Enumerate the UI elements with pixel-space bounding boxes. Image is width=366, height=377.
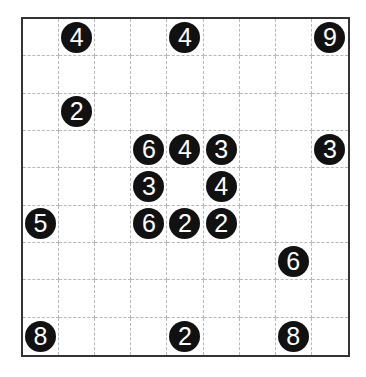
grid-cell-r6-c8[interactable] (312, 243, 348, 280)
grid-cell-r1-c3[interactable] (131, 56, 167, 93)
clue-circle: 4 (169, 22, 200, 53)
grid-cell-r6-c0[interactable] (23, 243, 59, 280)
grid-cell-r7-c7[interactable] (276, 280, 312, 317)
grid-cell-r0-c3[interactable] (131, 19, 167, 56)
grid-cell-r7-c4[interactable] (167, 280, 203, 317)
clue-circle: 4 (169, 134, 200, 165)
grid-cell-r5-c4[interactable]: 2 (167, 206, 203, 243)
grid-cell-r2-c4[interactable] (167, 94, 203, 131)
grid-cell-r8-c5[interactable] (204, 318, 240, 355)
grid-cell-r3-c6[interactable] (240, 131, 276, 168)
grid-cell-r2-c0[interactable] (23, 94, 59, 131)
grid-cell-r0-c5[interactable] (204, 19, 240, 56)
grid-cell-r2-c6[interactable] (240, 94, 276, 131)
clue-circle: 4 (61, 22, 92, 53)
clue-circle: 6 (133, 208, 164, 239)
grid-cell-r0-c8[interactable]: 9 (312, 19, 348, 56)
clue-circle: 8 (278, 321, 309, 352)
grid-cell-r5-c5[interactable]: 2 (204, 206, 240, 243)
grid-cell-r7-c3[interactable] (131, 280, 167, 317)
grid-cell-r8-c1[interactable] (59, 318, 95, 355)
grid-cell-r6-c3[interactable] (131, 243, 167, 280)
grid-cell-r0-c6[interactable] (240, 19, 276, 56)
grid-cell-r4-c2[interactable] (95, 168, 131, 205)
grid-cell-r4-c6[interactable] (240, 168, 276, 205)
grid-cell-r2-c8[interactable] (312, 94, 348, 131)
grid-cell-r6-c5[interactable] (204, 243, 240, 280)
grid-cell-r5-c8[interactable] (312, 206, 348, 243)
clue-circle: 3 (206, 134, 237, 165)
clue-circle: 4 (206, 171, 237, 202)
grid-cell-r1-c4[interactable] (167, 56, 203, 93)
grid-cell-r4-c0[interactable] (23, 168, 59, 205)
clue-circle: 2 (169, 208, 200, 239)
grid-cell-r3-c7[interactable] (276, 131, 312, 168)
grid-cell-r1-c5[interactable] (204, 56, 240, 93)
grid-cell-r3-c3[interactable]: 6 (131, 131, 167, 168)
grid-cell-r5-c7[interactable] (276, 206, 312, 243)
grid-cell-r1-c7[interactable] (276, 56, 312, 93)
clue-circle: 6 (278, 246, 309, 277)
grid-cell-r8-c3[interactable] (131, 318, 167, 355)
grid-cell-r0-c4[interactable]: 4 (167, 19, 203, 56)
grid-cell-r4-c3[interactable]: 3 (131, 168, 167, 205)
grid-cell-r1-c0[interactable] (23, 56, 59, 93)
grid-cell-r1-c1[interactable] (59, 56, 95, 93)
clue-circle: 5 (25, 208, 56, 239)
grid-cell-r4-c4[interactable] (167, 168, 203, 205)
grid-cell-r3-c5[interactable]: 3 (204, 131, 240, 168)
grid-cell-r6-c6[interactable] (240, 243, 276, 280)
clue-circle: 2 (206, 208, 237, 239)
grid-cell-r5-c0[interactable]: 5 (23, 206, 59, 243)
grid-cell-r3-c1[interactable] (59, 131, 95, 168)
grid-cell-r2-c7[interactable] (276, 94, 312, 131)
puzzle-grid: 449264333456226828 (21, 17, 350, 357)
grid-cell-r6-c2[interactable] (95, 243, 131, 280)
grid-cell-r0-c1[interactable]: 4 (59, 19, 95, 56)
grid-cell-r3-c0[interactable] (23, 131, 59, 168)
grid-cell-r7-c0[interactable] (23, 280, 59, 317)
grid-cell-r3-c4[interactable]: 4 (167, 131, 203, 168)
grid-cell-r1-c2[interactable] (95, 56, 131, 93)
grid-cell-r2-c2[interactable] (95, 94, 131, 131)
grid-cell-r5-c1[interactable] (59, 206, 95, 243)
grid-cell-r7-c2[interactable] (95, 280, 131, 317)
grid-cell-r0-c7[interactable] (276, 19, 312, 56)
grid-cell-r8-c7[interactable]: 8 (276, 318, 312, 355)
grid-cell-r8-c8[interactable] (312, 318, 348, 355)
grid-cell-r7-c6[interactable] (240, 280, 276, 317)
clue-circle: 9 (314, 22, 345, 53)
clue-circle: 2 (169, 321, 200, 352)
grid-cell-r0-c2[interactable] (95, 19, 131, 56)
clue-circle: 2 (61, 96, 92, 127)
grid-cell-r6-c1[interactable] (59, 243, 95, 280)
grid-cell-r1-c8[interactable] (312, 56, 348, 93)
grid-cell-r8-c4[interactable]: 2 (167, 318, 203, 355)
grid-cell-r8-c2[interactable] (95, 318, 131, 355)
grid-cell-r5-c2[interactable] (95, 206, 131, 243)
grid-cell-r4-c7[interactable] (276, 168, 312, 205)
grid-cell-r3-c8[interactable]: 3 (312, 131, 348, 168)
grid-cell-r5-c3[interactable]: 6 (131, 206, 167, 243)
grid-cell-r4-c5[interactable]: 4 (204, 168, 240, 205)
grid-cell-r7-c5[interactable] (204, 280, 240, 317)
grid-cell-r6-c7[interactable]: 6 (276, 243, 312, 280)
clue-circle: 3 (133, 171, 164, 202)
grid-cell-r7-c8[interactable] (312, 280, 348, 317)
grid-cell-r1-c6[interactable] (240, 56, 276, 93)
grid-cell-r3-c2[interactable] (95, 131, 131, 168)
grid-cell-r2-c1[interactable]: 2 (59, 94, 95, 131)
clue-circle: 6 (133, 134, 164, 165)
grid-cell-r7-c1[interactable] (59, 280, 95, 317)
clue-circle: 3 (314, 134, 345, 165)
grid-cell-r5-c6[interactable] (240, 206, 276, 243)
grid-cell-r4-c1[interactable] (59, 168, 95, 205)
grid-cell-r0-c0[interactable] (23, 19, 59, 56)
grid-cell-r2-c3[interactable] (131, 94, 167, 131)
grid-cell-r6-c4[interactable] (167, 243, 203, 280)
grid-cell-r8-c6[interactable] (240, 318, 276, 355)
clue-circle: 8 (25, 321, 56, 352)
grid-cell-r8-c0[interactable]: 8 (23, 318, 59, 355)
grid-cell-r2-c5[interactable] (204, 94, 240, 131)
grid-cell-r4-c8[interactable] (312, 168, 348, 205)
